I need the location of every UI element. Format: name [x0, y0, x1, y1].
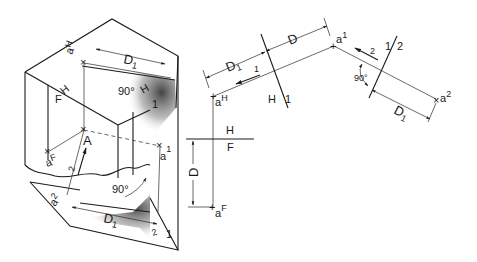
label-D-vertical: D [186, 168, 201, 177]
label-F: F [55, 93, 62, 105]
label-a2: a2 [45, 191, 63, 208]
label-angle: 90° [354, 73, 368, 83]
label-D1-bottom: D1 [102, 210, 120, 230]
label-D: D [286, 30, 300, 47]
label-fold-H1-H: H [268, 93, 276, 105]
label-a1: a1 [336, 30, 347, 45]
label-angle-top: 90° [118, 85, 135, 97]
label-one-top: 1 [152, 98, 158, 110]
bottom-plane-back-edge [30, 182, 80, 190]
label-two-right: 2 [150, 227, 158, 238]
label-a2: a2 [440, 89, 451, 104]
ext-line-D1-left [203, 70, 209, 88]
label-D1-right: D1 [391, 102, 412, 124]
label-fold-HF-H: H [226, 124, 234, 136]
label-fold-HF-F: F [227, 141, 234, 153]
label-fold-12-2: 2 [397, 40, 403, 52]
label-one-right: 1 [166, 228, 172, 240]
label-D1: D1 [224, 55, 244, 76]
label-D1-top: D1 [122, 51, 140, 71]
label-fold-12-1: 1 [385, 40, 391, 52]
label-A: A [83, 133, 92, 148]
label-aF: aF [215, 203, 227, 219]
label-angle-bottom: 90° [112, 183, 129, 195]
label-two-left: 2 [66, 165, 77, 172]
break-line [25, 164, 150, 177]
label-line-of-sight-1: 1 [254, 64, 259, 74]
shade-plane-2 [80, 195, 150, 240]
line-of-sight-1-arrow [236, 75, 260, 84]
box-front-top-edge [25, 72, 118, 125]
pictorial-view: × × × × D1 aH 90° H 1 H F A aF a1 2 90° … [25, 19, 178, 250]
point-marker-a2: × [433, 94, 439, 106]
label-line-of-sight-2: 2 [370, 46, 375, 56]
projector-a1-a2 [334, 46, 436, 99]
orthographic-view: D1 D + a1 1 + aH H 1 1 2 2 90° D1 × a2 H [185, 18, 451, 219]
label-fold-H1-1: 1 [285, 93, 291, 105]
projector-A-aF [48, 130, 84, 152]
point-marker-aH: × [80, 56, 86, 68]
line-of-sight-2-arrow [78, 148, 86, 175]
label-aH: aH [215, 93, 228, 108]
descriptive-geometry-diagram: × × × × D1 aH 90° H 1 H F A aF a1 2 90° … [0, 0, 477, 262]
